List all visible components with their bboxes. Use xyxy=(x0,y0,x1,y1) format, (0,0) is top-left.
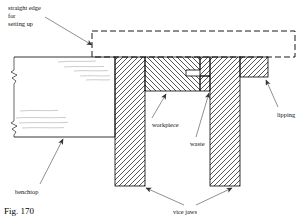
label-lipping: lipping xyxy=(277,111,296,118)
label-workpiece: workpiece xyxy=(152,121,179,128)
label-straight-edge-line3: setting up xyxy=(8,20,33,27)
diagram-background xyxy=(0,0,307,220)
technical-diagram: straight edge for setting up workpiece w… xyxy=(0,0,307,220)
label-vice-jaws: vice jaws xyxy=(173,208,197,215)
lipping-part xyxy=(240,57,268,77)
figure-canvas: straight edge for setting up workpiece w… xyxy=(0,0,307,220)
label-straight-edge-line2: for xyxy=(8,12,16,19)
right-vice-jaw-part xyxy=(210,57,240,186)
label-straight-edge-line1: straight edge xyxy=(8,4,41,11)
label-waste: waste xyxy=(190,140,205,147)
figure-number: Fig. 170 xyxy=(4,206,35,216)
label-benchtop: benchtop xyxy=(15,188,38,195)
left-vice-jaw-part xyxy=(115,57,145,186)
waste-part xyxy=(200,57,210,91)
